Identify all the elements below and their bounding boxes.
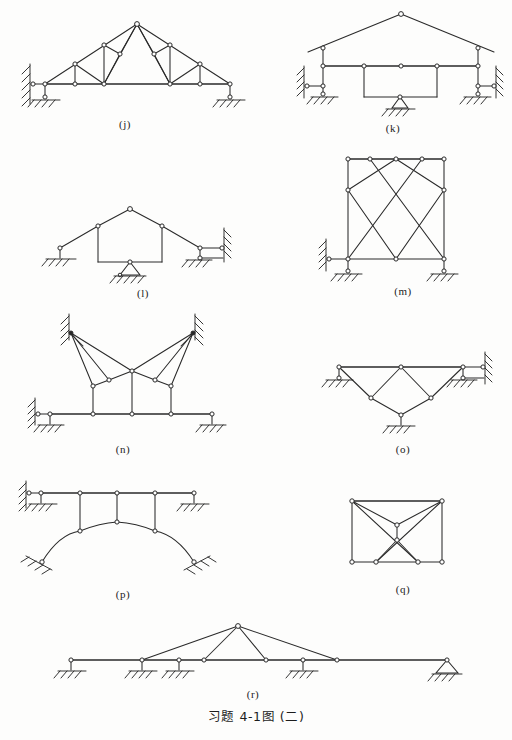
support-left-p: [19, 481, 57, 511]
support-top-left-n: [61, 314, 83, 346]
web-o-2: [371, 367, 401, 398]
joints-l: [96, 207, 164, 229]
web-j-6: [170, 64, 200, 84]
figure-label-l: (l): [118, 287, 168, 299]
chord-n-2: [109, 371, 132, 380]
figure-label-q: (q): [378, 583, 428, 595]
rafter-right-inner-l: [130, 209, 162, 226]
ground-right-m: [427, 274, 458, 281]
figure-label-n: (n): [98, 443, 148, 455]
abutment-right-p: [184, 556, 216, 574]
roof-right-k: [401, 14, 494, 52]
web-j-1: [75, 64, 104, 84]
joints-j: [43, 22, 232, 87]
stay-n-3: [71, 333, 132, 371]
support-right-deck-p: [177, 491, 209, 511]
brace-m-6: [396, 159, 444, 190]
stay-n-5: [155, 333, 193, 380]
support-right-l: [182, 228, 231, 267]
support-r-5: [428, 658, 462, 681]
web-o-5: [371, 398, 401, 415]
figure-j: [8, 6, 258, 116]
figure-label-j: (j): [100, 118, 150, 130]
joint: [346, 269, 350, 273]
support-top-right-n: [181, 314, 203, 346]
stay-n-1: [71, 333, 93, 386]
web-o-6: [401, 398, 431, 415]
rafter-right-outer-l: [162, 226, 200, 248]
support-left-m: [319, 239, 348, 271]
support-r-2: [125, 658, 157, 678]
brace-m-2: [348, 159, 396, 190]
joint: [228, 95, 232, 99]
rafter-left-inner-l: [98, 209, 130, 226]
figure-label-o: (o): [378, 443, 428, 455]
support-center-l: [110, 260, 146, 283]
strut-r-4: [238, 626, 337, 660]
joint: [43, 95, 47, 99]
stay-n-6: [132, 333, 193, 371]
figure-p: [12, 478, 237, 583]
ground-left-m: [331, 274, 362, 281]
rafter-left-outer-l: [60, 226, 98, 248]
joints-o: [337, 365, 465, 400]
joints-r: [202, 624, 339, 663]
figure-q: [330, 488, 480, 583]
support-left-o: [322, 367, 353, 387]
chord-n-3: [132, 371, 155, 380]
figure-label-k: (k): [368, 122, 418, 134]
figure-k: [290, 4, 505, 119]
figure-label-m: (m): [378, 285, 428, 297]
support-left-n: [28, 398, 64, 432]
support-right-k: [460, 66, 503, 104]
figure-label-p: (p): [98, 588, 148, 600]
ground-left-j: [28, 100, 60, 107]
figure-o: [305, 340, 510, 440]
web-o-3: [401, 367, 431, 398]
support-center-o: [383, 413, 415, 433]
web-j-2: [104, 45, 120, 54]
joints-k: [321, 12, 480, 69]
figure-m: [300, 145, 510, 285]
figure-l: [40, 196, 255, 288]
stay-n-2: [71, 333, 109, 380]
support-pin-center-k: [382, 95, 415, 116]
support-r-4: [286, 658, 318, 678]
strut-r-1: [142, 626, 238, 660]
stay-n-4: [171, 333, 193, 386]
textbook-figure-page: (j): [0, 0, 512, 740]
figure-n: [20, 312, 250, 437]
support-r-3: [162, 658, 194, 678]
support-left-k: [297, 66, 338, 104]
abutment-left-p: [21, 556, 52, 574]
joint: [442, 269, 446, 273]
support-left-l: [42, 246, 76, 266]
web-j-7: [154, 45, 170, 54]
figure-caption: 习题 4-1图 (二): [0, 706, 512, 725]
figure-label-r: (r): [228, 688, 278, 700]
arch-rib-p: [42, 522, 194, 562]
web-o-1: [339, 367, 371, 398]
support-wall-left-j: [22, 64, 30, 106]
support-r-1: [54, 658, 86, 678]
strut-r-2: [204, 626, 238, 660]
support-right-o: [447, 352, 492, 387]
support-right-n: [196, 412, 226, 432]
figure-r: [32, 614, 488, 686]
ground-right-j: [213, 100, 245, 107]
joint: [31, 82, 35, 86]
